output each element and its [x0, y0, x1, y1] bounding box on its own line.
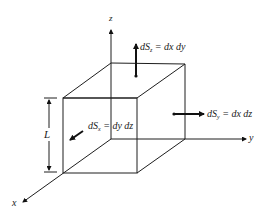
dimension-label: L	[43, 128, 50, 140]
y-axis-label: y	[248, 132, 254, 143]
x-axis	[23, 139, 111, 202]
dSy-label: dSy = dx dz	[207, 108, 252, 120]
surface-element-dSz: dSz = dx dy	[134, 41, 186, 78]
dSx-label: dSx = dy dz	[88, 120, 133, 132]
surface-element-dSx: dSx = dy dz	[70, 120, 133, 140]
dimension-L: L	[43, 98, 57, 172]
surface-element-dSy: dSy = dx dz	[172, 108, 252, 120]
x-axis-label: x	[11, 197, 17, 208]
cube-diagram: L dSz = dx dy dSy = dx dz dSx = dy dz z …	[0, 0, 261, 219]
z-axis-label: z	[108, 13, 113, 23]
cube-front-face	[63, 98, 137, 173]
dSz-label: dSz = dx dy	[140, 41, 186, 53]
cube-top-face	[63, 63, 185, 98]
cube	[63, 63, 185, 173]
